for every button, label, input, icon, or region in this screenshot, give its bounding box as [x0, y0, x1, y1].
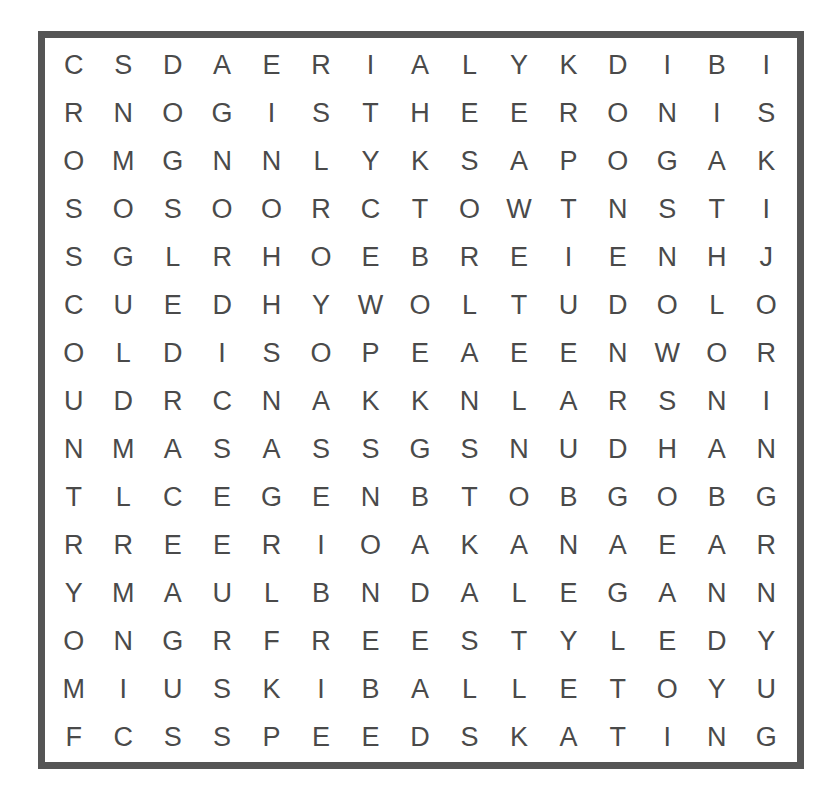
letter-cell[interactable]: I — [643, 714, 692, 762]
letter-cell[interactable]: R — [296, 618, 345, 666]
letter-cell[interactable]: A — [445, 329, 494, 377]
letter-cell[interactable]: R — [445, 233, 494, 281]
letter-cell[interactable]: A — [148, 570, 197, 618]
letter-cell[interactable]: H — [247, 233, 296, 281]
letter-cell[interactable]: S — [98, 41, 147, 89]
letter-cell[interactable]: O — [643, 474, 692, 522]
letter-cell[interactable]: E — [494, 329, 543, 377]
letter-cell[interactable]: D — [593, 281, 642, 329]
letter-cell[interactable]: A — [692, 426, 741, 474]
letter-cell[interactable]: A — [494, 522, 543, 570]
letter-cell[interactable]: O — [98, 185, 147, 233]
letter-cell[interactable]: U — [197, 570, 246, 618]
letter-cell[interactable]: N — [692, 377, 741, 425]
letter-cell[interactable]: E — [593, 233, 642, 281]
letter-cell[interactable]: C — [98, 714, 147, 762]
letter-cell[interactable]: H — [247, 281, 296, 329]
letter-cell[interactable]: J — [742, 233, 791, 281]
letter-cell[interactable]: O — [692, 329, 741, 377]
letter-cell[interactable]: G — [148, 618, 197, 666]
letter-cell[interactable]: R — [247, 522, 296, 570]
letter-cell[interactable]: R — [148, 377, 197, 425]
letter-cell[interactable]: O — [148, 89, 197, 137]
letter-cell[interactable]: S — [49, 233, 98, 281]
letter-cell[interactable]: E — [197, 474, 246, 522]
letter-cell[interactable]: U — [742, 666, 791, 714]
letter-cell[interactable]: E — [494, 233, 543, 281]
letter-cell[interactable]: B — [395, 233, 444, 281]
letter-cell[interactable]: D — [593, 41, 642, 89]
letter-cell[interactable]: A — [247, 426, 296, 474]
letter-cell[interactable]: C — [148, 474, 197, 522]
letter-cell[interactable]: L — [98, 474, 147, 522]
letter-cell[interactable]: W — [643, 329, 692, 377]
letter-cell[interactable]: S — [197, 666, 246, 714]
letter-cell[interactable]: K — [247, 666, 296, 714]
letter-cell[interactable]: O — [197, 185, 246, 233]
letter-cell[interactable]: N — [98, 618, 147, 666]
letter-cell[interactable]: P — [346, 329, 395, 377]
letter-cell[interactable]: E — [197, 522, 246, 570]
letter-cell[interactable]: K — [395, 377, 444, 425]
letter-cell[interactable]: D — [98, 377, 147, 425]
letter-cell[interactable]: B — [692, 474, 741, 522]
letter-cell[interactable]: Y — [494, 41, 543, 89]
letter-cell[interactable]: M — [49, 666, 98, 714]
letter-cell[interactable]: O — [49, 618, 98, 666]
letter-cell[interactable]: R — [742, 522, 791, 570]
letter-cell[interactable]: E — [296, 714, 345, 762]
letter-cell[interactable]: S — [643, 185, 692, 233]
letter-cell[interactable]: A — [692, 137, 741, 185]
letter-cell[interactable]: R — [593, 377, 642, 425]
letter-cell[interactable]: G — [197, 89, 246, 137]
letter-cell[interactable]: O — [643, 281, 692, 329]
letter-cell[interactable]: U — [98, 281, 147, 329]
letter-cell[interactable]: I — [247, 89, 296, 137]
letter-cell[interactable]: D — [395, 570, 444, 618]
letter-cell[interactable]: S — [643, 377, 692, 425]
letter-cell[interactable]: S — [742, 89, 791, 137]
letter-cell[interactable]: N — [593, 185, 642, 233]
letter-cell[interactable]: I — [742, 185, 791, 233]
letter-cell[interactable]: N — [593, 329, 642, 377]
letter-cell[interactable]: P — [544, 137, 593, 185]
letter-cell[interactable]: T — [692, 185, 741, 233]
letter-cell[interactable]: T — [544, 185, 593, 233]
letter-cell[interactable]: L — [296, 137, 345, 185]
letter-cell[interactable]: A — [395, 41, 444, 89]
letter-cell[interactable]: K — [346, 377, 395, 425]
letter-cell[interactable]: A — [643, 570, 692, 618]
letter-cell[interactable]: E — [346, 714, 395, 762]
letter-cell[interactable]: S — [445, 618, 494, 666]
letter-cell[interactable]: S — [445, 426, 494, 474]
letter-cell[interactable]: K — [742, 137, 791, 185]
letter-cell[interactable]: O — [296, 329, 345, 377]
letter-cell[interactable]: L — [593, 618, 642, 666]
letter-cell[interactable]: K — [494, 714, 543, 762]
letter-cell[interactable]: S — [247, 329, 296, 377]
letter-cell[interactable]: A — [296, 377, 345, 425]
letter-cell[interactable]: O — [296, 233, 345, 281]
letter-cell[interactable]: E — [395, 329, 444, 377]
letter-cell[interactable]: S — [49, 185, 98, 233]
letter-cell[interactable]: N — [346, 570, 395, 618]
letter-cell[interactable]: A — [445, 570, 494, 618]
letter-cell[interactable]: C — [346, 185, 395, 233]
letter-cell[interactable]: R — [296, 41, 345, 89]
letter-cell[interactable]: U — [49, 377, 98, 425]
letter-cell[interactable]: A — [197, 41, 246, 89]
letter-cell[interactable]: H — [643, 426, 692, 474]
letter-cell[interactable]: M — [98, 137, 147, 185]
letter-cell[interactable]: T — [395, 185, 444, 233]
letter-cell[interactable]: E — [296, 474, 345, 522]
letter-cell[interactable]: D — [197, 281, 246, 329]
letter-cell[interactable]: N — [197, 137, 246, 185]
letter-cell[interactable]: S — [445, 714, 494, 762]
letter-cell[interactable]: G — [742, 474, 791, 522]
letter-cell[interactable]: B — [395, 474, 444, 522]
letter-cell[interactable]: O — [247, 185, 296, 233]
letter-cell[interactable]: K — [445, 522, 494, 570]
letter-cell[interactable]: N — [494, 426, 543, 474]
letter-cell[interactable]: E — [544, 666, 593, 714]
letter-cell[interactable]: Y — [742, 618, 791, 666]
